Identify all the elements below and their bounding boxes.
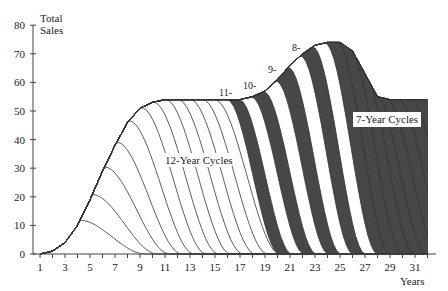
x-tick-label: 23 <box>310 261 322 273</box>
x-tick-label: 19 <box>260 261 272 273</box>
x-tick-label: 21 <box>285 261 296 273</box>
x-tick-label: 1 <box>37 261 43 273</box>
x-tick-label: 13 <box>185 261 197 273</box>
x-axis-title: Years <box>400 275 425 287</box>
y-tick-label: 10 <box>14 219 26 231</box>
x-tick-label: 17 <box>235 261 247 273</box>
x-tick-label: 11 <box>160 261 171 273</box>
label-7-year-cycles: 7-Year Cycles <box>356 113 418 125</box>
label-9-year: 9- <box>268 64 276 75</box>
label-12-year-cycles: 12-Year Cycles <box>165 154 233 166</box>
y-tick-label: 50 <box>14 105 26 117</box>
dark-band <box>40 42 428 254</box>
total-sales-chart: 0102030405060708013579111315171921232527… <box>0 0 448 291</box>
chart-canvas: 0102030405060708013579111315171921232527… <box>0 0 448 291</box>
label-10-year: 10- <box>243 80 256 91</box>
x-tick-label: 15 <box>210 261 222 273</box>
y-axis-title-line1: Total <box>40 12 62 24</box>
x-tick-label: 7 <box>112 261 118 273</box>
x-tick-label: 25 <box>335 261 347 273</box>
y-tick-label: 60 <box>14 76 26 88</box>
x-tick-label: 9 <box>137 261 143 273</box>
label-11-year: 11- <box>219 87 232 98</box>
y-tick-label: 40 <box>14 134 26 146</box>
y-axis-title-line2: Sales <box>40 24 63 36</box>
x-tick-label: 29 <box>385 261 397 273</box>
cycle-bands <box>40 42 428 254</box>
x-tick-label: 5 <box>87 261 93 273</box>
y-tick-label: 80 <box>14 19 26 31</box>
y-tick-label: 30 <box>14 162 26 174</box>
x-tick-label: 31 <box>410 261 421 273</box>
x-tick-label: 3 <box>62 261 68 273</box>
x-tick-label: 27 <box>360 261 372 273</box>
y-tick-label: 70 <box>14 48 26 60</box>
y-tick-label: 0 <box>20 248 26 260</box>
label-8-year: 8- <box>292 42 300 53</box>
y-tick-label: 20 <box>14 191 26 203</box>
